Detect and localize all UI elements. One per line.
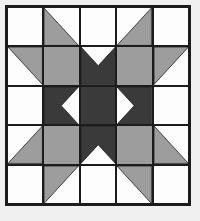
quilt-cell-r2c5: [154, 47, 188, 84]
patch-shape-triangle-bottom-left: [44, 8, 78, 45]
quilt-cell-r2c4: [117, 47, 151, 84]
quilt-cell-r4c2: [44, 126, 78, 163]
quilt-cell-r4c4: [117, 126, 151, 163]
quilt-block: [5, 5, 191, 206]
patch-shape-triangle-bottom-right: [8, 126, 42, 163]
image-canvas: [0, 0, 200, 221]
patch-shape-notch-left: [117, 87, 151, 124]
patch-polygon: [44, 87, 78, 124]
quilt-cell-r3c2: [44, 87, 78, 124]
quilt-cell-r5c1: [8, 166, 42, 203]
quilt-cell-r4c5: [154, 126, 188, 163]
quilt-cell-r1c3: [81, 8, 115, 45]
patch-polygon: [44, 166, 78, 203]
quilt-cell-r5c2: [44, 166, 78, 203]
patch-polygon: [81, 126, 115, 163]
patch-polygon: [117, 8, 151, 45]
patch-polygon: [8, 126, 42, 163]
quilt-cell-r2c2: [44, 47, 78, 84]
quilt-cell-r1c1: [8, 8, 42, 45]
patch-polygon: [117, 87, 151, 124]
quilt-cell-r5c3: [81, 166, 115, 203]
quilt-cell-r2c3: [81, 47, 115, 84]
patch-shape-triangle-bottom-right: [117, 8, 151, 45]
quilt-cell-r1c4: [117, 8, 151, 45]
quilt-cell-r4c1: [8, 126, 42, 163]
quilt-grid: [8, 8, 188, 203]
patch-polygon: [117, 166, 151, 203]
quilt-cell-r1c2: [44, 8, 78, 45]
patch-shape-notch-up: [81, 126, 115, 163]
patch-shape-triangle-top-right: [117, 166, 151, 203]
quilt-cell-r5c4: [117, 166, 151, 203]
patch-shape-triangle-top-left: [44, 166, 78, 203]
quilt-cell-r1c5: [154, 8, 188, 45]
patch-polygon: [154, 126, 188, 163]
patch-shape-notch-right: [44, 87, 78, 124]
quilt-cell-r4c3: [81, 126, 115, 163]
patch-polygon: [81, 47, 115, 84]
patch-shape-triangle-top-left: [154, 47, 188, 84]
quilt-cell-r3c5: [154, 87, 188, 124]
patch-shape-notch-down: [81, 47, 115, 84]
patch-polygon: [44, 8, 78, 45]
patch-shape-triangle-bottom-left: [154, 126, 188, 163]
quilt-cell-r2c1: [8, 47, 42, 84]
quilt-cell-r3c1: [8, 87, 42, 124]
quilt-cell-r3c3: [81, 87, 115, 124]
patch-shape-triangle-top-right: [8, 47, 42, 84]
patch-polygon: [8, 47, 42, 84]
patch-polygon: [154, 47, 188, 84]
quilt-cell-r3c4: [117, 87, 151, 124]
quilt-cell-r5c5: [154, 166, 188, 203]
